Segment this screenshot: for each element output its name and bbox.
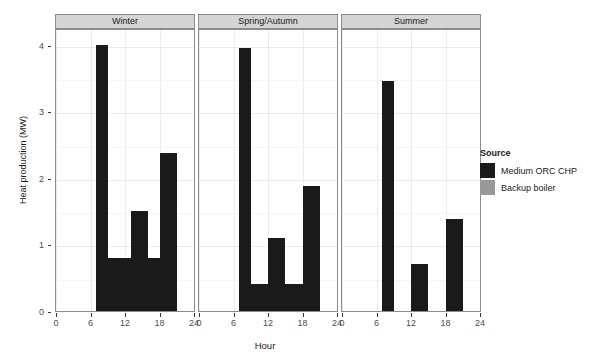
- x-tick-label: 6: [231, 318, 236, 328]
- x-axis-title: Hour: [55, 340, 475, 351]
- facet-panel-summer: Summer: [341, 14, 481, 312]
- y-tick-label: 0: [0, 307, 44, 317]
- bar-medium-orc-chp: [251, 284, 268, 311]
- x-tick-label: 0: [196, 318, 201, 328]
- x-tick-label: 12: [263, 318, 273, 328]
- x-axis: 06121824: [198, 313, 338, 333]
- x-tick-label: 0: [53, 318, 58, 328]
- bar-medium-orc-chp: [108, 258, 131, 311]
- gridline-vertical: [91, 30, 92, 311]
- bar-medium-orc-chp: [239, 48, 251, 311]
- chart-figure: Heat production (MW) Hour 01234 WinterSp…: [0, 0, 608, 361]
- legend-swatch: [480, 180, 495, 195]
- facet-strip-label: Summer: [341, 14, 481, 29]
- x-tick-mark: [56, 313, 57, 317]
- y-tick-mark: [48, 245, 51, 246]
- x-tick-mark: [303, 313, 304, 317]
- bar-medium-orc-chp: [285, 284, 302, 311]
- x-tick-mark: [446, 313, 447, 317]
- y-tick-mark: [48, 112, 51, 113]
- bar-medium-orc-chp: [446, 219, 463, 311]
- legend-item: Backup boiler: [480, 179, 600, 196]
- y-tick-mark: [48, 312, 51, 313]
- legend-item: Medium ORC CHP: [480, 162, 600, 179]
- facet-strip-label: Spring/Autumn: [198, 14, 338, 29]
- x-tick-mark: [125, 313, 126, 317]
- y-tick-label: 2: [0, 174, 44, 184]
- legend-swatch: [480, 163, 495, 178]
- x-tick-label: 18: [154, 318, 164, 328]
- x-tick-label: 6: [374, 318, 379, 328]
- x-tick-mark: [377, 313, 378, 317]
- x-tick-label: 12: [406, 318, 416, 328]
- x-tick-label: 6: [88, 318, 93, 328]
- x-tick-mark: [337, 313, 338, 317]
- plot-area: [198, 29, 338, 312]
- x-axis: 06121824: [341, 313, 481, 333]
- facet-panel-winter: Winter: [55, 14, 195, 312]
- x-tick-mark: [411, 313, 412, 317]
- x-tick-mark: [160, 313, 161, 317]
- bar-medium-orc-chp: [160, 153, 177, 311]
- plot-area: [55, 29, 195, 312]
- x-tick-label: 12: [120, 318, 130, 328]
- legend-item-label: Medium ORC CHP: [501, 166, 577, 176]
- legend: Source Medium ORC CHPBackup boiler: [480, 148, 600, 196]
- legend-title: Source: [480, 148, 600, 158]
- y-tick-mark: [48, 179, 51, 180]
- x-tick-label: 18: [440, 318, 450, 328]
- gridline-vertical: [199, 30, 200, 311]
- x-tick-mark: [91, 313, 92, 317]
- bar-medium-orc-chp: [148, 258, 160, 311]
- y-axis-title: Heat production (MW): [14, 10, 32, 310]
- bar-medium-orc-chp: [96, 45, 108, 311]
- y-tick-mark: [48, 46, 51, 47]
- legend-items: Medium ORC CHPBackup boiler: [480, 162, 600, 196]
- x-tick-label: 0: [339, 318, 344, 328]
- x-tick-mark: [342, 313, 343, 317]
- y-tick-label: 3: [0, 107, 44, 117]
- x-axis: 06121824: [55, 313, 195, 333]
- bar-medium-orc-chp: [131, 211, 148, 311]
- x-tick-mark: [199, 313, 200, 317]
- x-tick-mark: [268, 313, 269, 317]
- x-tick-mark: [480, 313, 481, 317]
- gridline-vertical: [377, 30, 378, 311]
- gridline-vertical: [337, 30, 338, 311]
- bar-medium-orc-chp: [268, 238, 285, 311]
- y-tick-label: 1: [0, 240, 44, 250]
- gridline-vertical: [342, 30, 343, 311]
- x-tick-label: 24: [475, 318, 485, 328]
- facet-strip-label: Winter: [55, 14, 195, 29]
- legend-item-label: Backup boiler: [501, 183, 556, 193]
- y-tick-label: 4: [0, 41, 44, 51]
- x-tick-mark: [194, 313, 195, 317]
- facet-panel-spring-autumn: Spring/Autumn: [198, 14, 338, 312]
- bar-medium-orc-chp: [382, 81, 394, 311]
- x-tick-label: 18: [297, 318, 307, 328]
- plot-area: [341, 29, 481, 312]
- bar-medium-orc-chp: [303, 186, 320, 311]
- bar-medium-orc-chp: [411, 264, 428, 311]
- gridline-vertical: [234, 30, 235, 311]
- x-tick-mark: [234, 313, 235, 317]
- gridline-vertical: [194, 30, 195, 311]
- gridline-vertical: [56, 30, 57, 311]
